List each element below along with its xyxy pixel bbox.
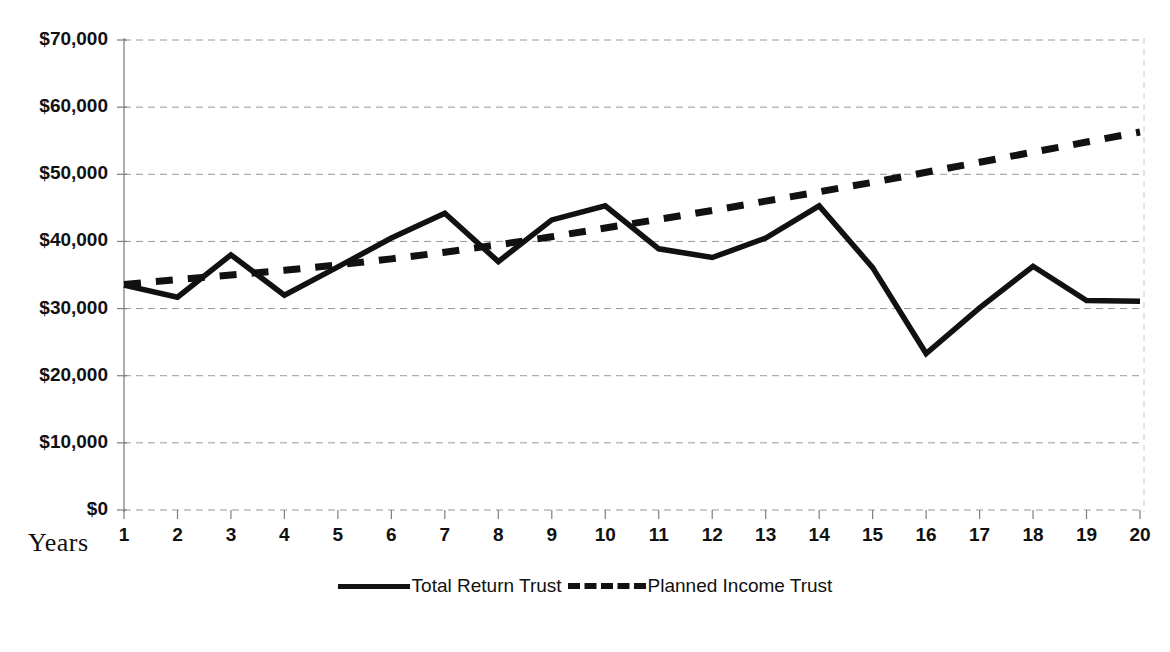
y-tick-label: $70,000 (0, 28, 108, 50)
series-line-total-return-trust (124, 206, 1140, 354)
gridlines-group (124, 40, 1144, 510)
chart-legend: Total Return Trust Planned Income Trust (0, 575, 1170, 597)
legend-item-planned-income-trust: Planned Income Trust (562, 575, 833, 597)
x-tick-label: 2 (152, 524, 202, 546)
chart-plot-area (0, 0, 1170, 652)
x-tick-label: 14 (794, 524, 844, 546)
x-tick-label: 13 (741, 524, 791, 546)
y-tick-label: $50,000 (0, 162, 108, 184)
legend-solid-line-icon (338, 584, 410, 589)
x-tick-label: 9 (527, 524, 577, 546)
legend-item-total-return-trust: Total Return Trust (338, 575, 562, 597)
axis-lines-group (124, 38, 1144, 512)
y-tick-label: $40,000 (0, 229, 108, 251)
legend-label-planned-income-trust: Planned Income Trust (648, 575, 833, 597)
x-tick-label: 10 (580, 524, 630, 546)
y-tick-marks-group (117, 40, 127, 510)
x-tick-marks-group (124, 510, 1140, 519)
x-tick-label: 16 (901, 524, 951, 546)
x-tick-label: 5 (313, 524, 363, 546)
x-tick-label: 4 (259, 524, 309, 546)
y-tick-label: $60,000 (0, 95, 108, 117)
chart-container: $0$10,000$20,000$30,000$40,000$50,000$60… (0, 0, 1170, 652)
x-tick-label: 6 (366, 524, 416, 546)
x-tick-label: 7 (420, 524, 470, 546)
x-tick-label: 12 (687, 524, 737, 546)
y-tick-label: $10,000 (0, 431, 108, 453)
x-tick-label: 19 (1062, 524, 1112, 546)
x-axis-title: Years (28, 528, 89, 558)
legend-dashed-line-icon (568, 583, 646, 589)
legend-label-total-return-trust: Total Return Trust (412, 575, 562, 597)
y-tick-label: $0 (0, 498, 108, 520)
x-tick-label: 15 (848, 524, 898, 546)
y-tick-label: $30,000 (0, 297, 108, 319)
x-tick-label: 8 (473, 524, 523, 546)
y-tick-label: $20,000 (0, 364, 108, 386)
x-tick-label: 20 (1115, 524, 1165, 546)
series-lines-group (124, 132, 1140, 354)
x-tick-label: 17 (955, 524, 1005, 546)
x-tick-label: 3 (206, 524, 256, 546)
x-tick-label: 18 (1008, 524, 1058, 546)
series-line-planned-income-trust (124, 132, 1140, 284)
x-tick-label: 11 (634, 524, 684, 546)
x-tick-label: 1 (99, 524, 149, 546)
